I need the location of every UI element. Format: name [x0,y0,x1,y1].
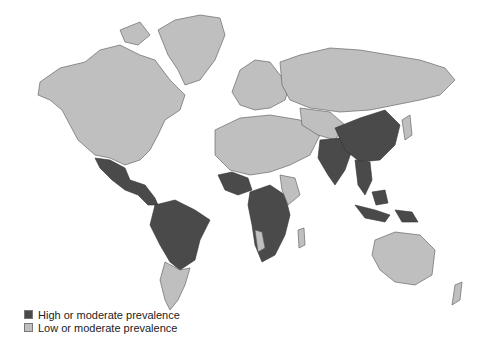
legend-label-high: High or moderate prevalence [38,309,180,321]
swatch-low [24,323,33,332]
region-australia [372,232,435,285]
map-legend: High or moderate prevalence Low or moder… [24,308,180,334]
region-west-africa [218,172,252,195]
region-borneo [372,190,388,205]
region-north-america [38,45,185,165]
region-greenland [158,15,225,85]
region-canadian-arctic [120,22,150,45]
region-papua [395,210,418,222]
region-madagascar [298,228,305,248]
swatch-high [24,310,33,319]
region-mexico-central-america [95,158,158,205]
legend-item-low: Low or moderate prevalence [24,321,180,334]
region-central-southern-africa [248,185,290,262]
region-south-america-north [150,200,210,270]
region-russia [280,48,455,112]
region-southeast-asia [355,160,372,195]
legend-item-high: High or moderate prevalence [24,308,180,321]
region-indonesia [355,205,390,222]
legend-label-low: Low or moderate prevalence [38,322,177,334]
region-japan [402,115,412,140]
world-map [0,0,489,354]
region-new-zealand [452,282,462,305]
region-south-america-south [160,262,190,310]
